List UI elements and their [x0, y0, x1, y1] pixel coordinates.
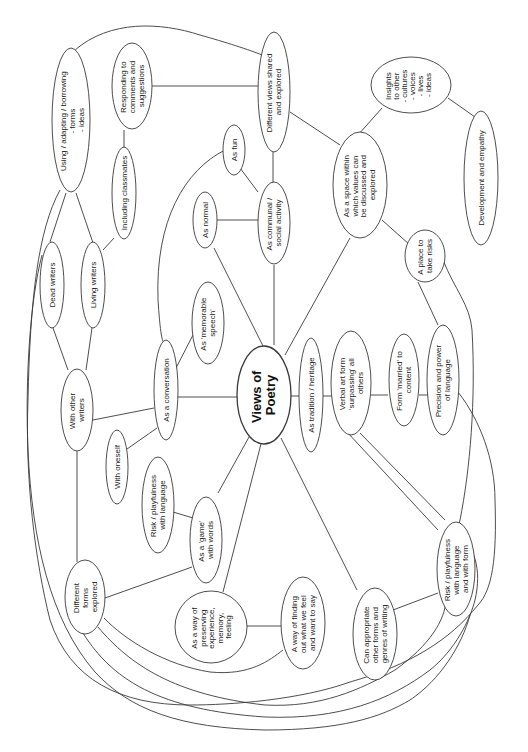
- svg-text:As a conversation: As a conversation: [162, 358, 171, 422]
- node-label: and want to say: [308, 595, 317, 651]
- node-label: 'surpassing' all: [347, 358, 356, 410]
- edge-verbal-riskform-a: [347, 432, 438, 530]
- node-dead-writers[interactable]: Dead writers: [40, 242, 64, 328]
- node-label: comments and: [128, 61, 137, 113]
- node-risk-form[interactable]: Risk / playfulness with language and wit…: [437, 522, 475, 616]
- svg-text:As a 'game' with words: As a 'game' with words: [197, 518, 215, 562]
- node-precision-power[interactable]: Precision and power of language: [427, 325, 459, 435]
- edge-game-forms: [105, 567, 192, 598]
- node-label: Dead writers: [48, 263, 57, 308]
- svg-text:As communal / social act: As communal / social activity: [265, 195, 283, 250]
- node-label: with words: [206, 521, 215, 560]
- node-label: A way of finding: [290, 596, 299, 652]
- node-label: Form 'married' to: [395, 351, 404, 412]
- edge-center-appropriate: [281, 438, 357, 590]
- node-living-writers[interactable]: Living writers: [81, 242, 105, 328]
- center-label: Views of: [249, 370, 264, 423]
- edge-verbal-riskform-b: [360, 433, 445, 520]
- node-label: suggestions: [137, 65, 146, 108]
- node-label: with language: [452, 545, 461, 596]
- node-label: As a 'game': [197, 520, 206, 562]
- svg-text:As tradition / heritage: As tradition / heritage: [307, 357, 316, 433]
- node-development-empathy[interactable]: Development and empathy: [464, 111, 498, 245]
- node-finding-out[interactable]: A way of finding out what we feel and wa…: [281, 577, 325, 669]
- svg-text:Risk / playfulness with: Risk / playfulness with language and wit…: [443, 537, 470, 601]
- node-preserving[interactable]: As a way of preserving experience, memor…: [175, 591, 247, 663]
- node-game-words[interactable]: As a 'game' with words: [190, 497, 222, 583]
- node-label: others: [356, 372, 365, 394]
- node-verbal-art[interactable]: Verbal art form 'surpassing' all others: [331, 331, 371, 435]
- node-label: writers: [77, 398, 86, 423]
- node-communal[interactable]: As communal / social activity: [258, 182, 290, 264]
- edge-risklang-game: [173, 512, 193, 518]
- node-as-conversation[interactable]: As a conversation: [154, 340, 178, 440]
- node-label: As fun: [230, 139, 239, 162]
- node-center-views-of-poetry[interactable]: Views of Poetry: [237, 346, 291, 444]
- node-as-normal[interactable]: As normal: [193, 192, 217, 248]
- node-label: feeling: [224, 615, 233, 639]
- edge-different-space: [290, 112, 340, 145]
- svg-text:Including classmates: Including classmates: [120, 156, 129, 230]
- node-tradition[interactable]: As tradition / heritage: [299, 338, 323, 452]
- node-label: Living writers: [89, 262, 98, 309]
- svg-text:Risk / playfulness with: Risk / playfulness with language: [149, 473, 167, 537]
- node-label: As a conversation: [162, 358, 171, 422]
- node-with-oneself[interactable]: With oneself: [106, 430, 128, 504]
- edge-using-living: [76, 193, 93, 243]
- edge-using-different-views: [75, 26, 262, 55]
- node-responding[interactable]: Responding to comments and suggestions: [112, 43, 152, 129]
- node-label: - ideas: [424, 73, 433, 97]
- node-label: Can appropriate: [362, 606, 371, 664]
- edge-conversation-oneself: [127, 428, 157, 449]
- svg-text:Living writers: Living writers: [89, 262, 98, 309]
- node-label: Development and empathy: [477, 130, 486, 226]
- node-using-adapting[interactable]: Using / adapting / borrowing - forms - i…: [52, 48, 90, 192]
- node-label: Precision and power: [434, 345, 443, 418]
- svg-text:A way of finding out wha: A way of finding out what we feel and wa…: [290, 593, 317, 653]
- edge-appropriate-riskform: [393, 593, 438, 610]
- svg-text:As normal: As normal: [201, 202, 210, 238]
- svg-text:With oneself: With oneself: [113, 444, 122, 489]
- node-space-values[interactable]: As a space within which values can be di…: [333, 132, 387, 238]
- node-label: Including classmates: [120, 156, 129, 230]
- svg-text:As fun: As fun: [230, 139, 239, 162]
- node-label: As normal: [201, 202, 210, 238]
- edge-forms-riskform-b: [80, 530, 478, 717]
- node-risk-language[interactable]: Risk / playfulness with language: [142, 457, 174, 553]
- svg-text:Development and empathy: Development and empathy: [477, 130, 486, 226]
- edge-dead-other: [53, 328, 68, 370]
- svg-text:Responding to comments a: Responding to comments and suggestions: [119, 59, 146, 114]
- node-label: social activity: [274, 199, 283, 246]
- edge-risks-precision: [418, 282, 438, 325]
- node-label: A place to: [416, 239, 425, 275]
- edge-classmates-living: [103, 238, 114, 250]
- node-different-views[interactable]: Different views shared and explored: [258, 32, 290, 152]
- node-with-other-writers[interactable]: With other writers: [61, 369, 93, 451]
- node-label: of language: [443, 359, 452, 401]
- node-label: With oneself: [113, 444, 122, 489]
- node-label: As communal /: [265, 197, 274, 251]
- edge-living-other: [86, 328, 92, 370]
- node-as-fun[interactable]: As fun: [223, 125, 245, 175]
- node-memorable-speech[interactable]: As 'memorable speech': [192, 282, 224, 364]
- edge-using-dead: [50, 193, 66, 242]
- svg-text:A place to take risks: A place to take risks: [416, 237, 434, 274]
- node-label: As tradition / heritage: [307, 357, 316, 433]
- edge-other-conversation: [93, 408, 154, 420]
- edge-memorable-conversation: [176, 335, 193, 368]
- node-insights[interactable]: Insights to other - cultures - voices - …: [371, 57, 451, 113]
- node-including-classmates[interactable]: Including classmates: [112, 147, 136, 239]
- node-label: and explored: [274, 69, 283, 115]
- edge-center-preserving: [223, 440, 262, 592]
- node-appropriate[interactable]: Can appropriate other forms and genres o…: [353, 588, 397, 680]
- node-form-married[interactable]: Form 'married' to content: [389, 334, 419, 426]
- node-place-risks[interactable]: A place to take risks: [405, 230, 445, 282]
- node-label: other forms and: [371, 607, 380, 663]
- node-label: with language: [158, 480, 167, 531]
- edge-fun-communal: [240, 168, 258, 192]
- node-label: take risks: [425, 239, 434, 273]
- node-label: genres of writing: [380, 605, 389, 664]
- node-different-forms[interactable]: Different forms explored: [65, 560, 105, 634]
- node-label: - forms: [68, 109, 77, 134]
- svg-text:Dead writers: Dead writers: [48, 263, 57, 308]
